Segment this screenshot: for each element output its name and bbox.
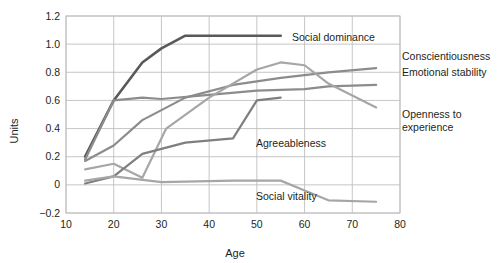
series-inline-label: Agreeableness <box>256 137 326 149</box>
grid-layer <box>66 16 400 213</box>
y-tick-label: 1.2 <box>45 10 60 22</box>
series-inline-label: Social vitality <box>256 190 317 202</box>
x-tick-label: 20 <box>108 218 120 230</box>
x-tick-label: 70 <box>346 218 358 230</box>
series-right-label: experience <box>402 121 454 133</box>
y-tick-label: 0.2 <box>45 150 60 162</box>
x-axis-tick-labels: 1020304050607080 <box>60 218 406 230</box>
x-tick-label: 60 <box>299 218 311 230</box>
series-inline-label: Social dominance <box>292 31 375 43</box>
series-right-label: Emotional stability <box>402 66 487 78</box>
series-line-agreeableness <box>85 98 281 184</box>
y-tick-label: 0.6 <box>45 94 60 106</box>
x-tick-label: 30 <box>156 218 168 230</box>
series-right-label: Conscientiousness <box>402 50 490 62</box>
series-line-social-vitality <box>85 176 376 201</box>
series-line-emotional-stability <box>85 85 376 160</box>
y-axis-tick-labels: −0.200.20.40.60.81.01.2 <box>39 10 60 219</box>
chart-container: −0.200.20.40.60.81.01.2 1020304050607080… <box>0 0 502 263</box>
y-tick-label: 1.0 <box>45 38 60 50</box>
y-tick-label: −0.2 <box>39 207 60 219</box>
plot-border <box>66 16 400 213</box>
inline-series-labels: Social dominanceAgreeablenessSocial vita… <box>256 31 375 202</box>
x-tick-label: 80 <box>394 218 406 230</box>
series-layer <box>85 36 376 202</box>
x-axis-title: Age <box>225 247 245 259</box>
series-right-label: Openness to <box>402 108 462 120</box>
y-axis-title: Units <box>8 118 20 144</box>
right-series-labels: ConscientiousnessEmotional stabilityOpen… <box>402 50 490 133</box>
y-tick-label: 0.4 <box>45 122 60 134</box>
y-tick-label: 0.8 <box>45 66 60 78</box>
x-tick-label: 50 <box>251 218 263 230</box>
x-tick-label: 10 <box>60 218 72 230</box>
personality-traits-line-chart: −0.200.20.40.60.81.01.2 1020304050607080… <box>0 0 502 263</box>
x-tick-label: 40 <box>203 218 215 230</box>
y-tick-label: 0 <box>54 178 60 190</box>
